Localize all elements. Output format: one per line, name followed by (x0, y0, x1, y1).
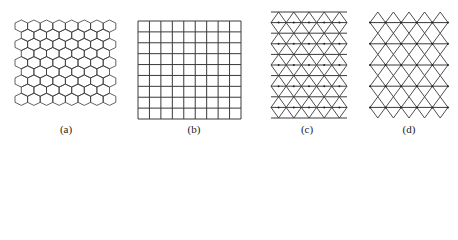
panel-label-d: (d) (389, 123, 429, 135)
